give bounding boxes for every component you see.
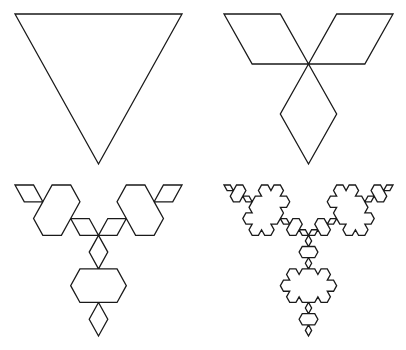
iteration-2-hexagons: [15, 185, 182, 336]
iteration-3-snowflake-clusters: [224, 185, 393, 336]
fractal-figure: [0, 0, 406, 350]
iteration-0-triangle: [15, 14, 182, 164]
iteration-1-three-rhombi: [224, 14, 393, 164]
